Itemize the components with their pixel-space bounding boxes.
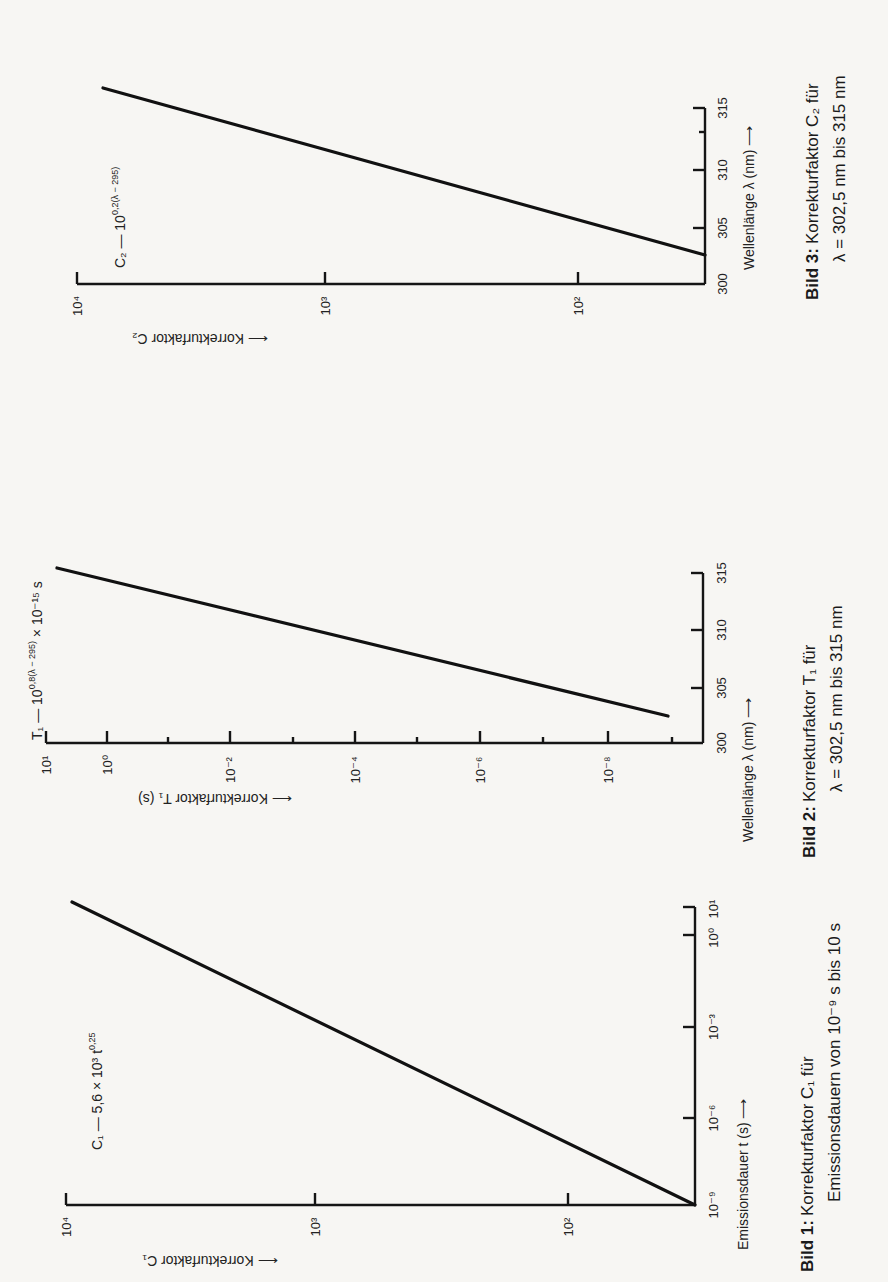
bild3-xtick-label: 300 bbox=[715, 273, 730, 295]
bild3-caption-line1: Bild 3:Korrekturfaktor C₂ für bbox=[803, 83, 822, 300]
bild2-xtick-label: 315 bbox=[714, 562, 729, 584]
bild2-caption-text: Korrekturfaktor T₁ für bbox=[800, 644, 819, 802]
bild1-caption-line1: Bild 1:Korrekturfaktor C₁ für bbox=[798, 1056, 817, 1272]
bild3-formula: C₂ — 100,2(λ − 295) bbox=[110, 167, 128, 268]
bild3-caption-line2: λ = 302,5 nm bis 315 nm bbox=[830, 75, 849, 262]
bild2-ytick-label: 10⁻² bbox=[223, 756, 238, 782]
bild1-xtick-label: 10⁻⁶ bbox=[706, 1105, 721, 1132]
bild2-xtick-label: 300 bbox=[714, 732, 729, 754]
bild1-xaxis-label: Emissionsdauer t (s) ⟶ bbox=[735, 1099, 751, 1250]
bild1-curve-c1 bbox=[72, 902, 695, 1205]
bild1-ytick-label: 10⁴ bbox=[59, 1217, 74, 1237]
chart-bild2: 10¹ 10⁰ 10⁻² 10⁻⁴ 10⁻⁶ 10⁻⁸ 300 305 310 … bbox=[27, 562, 846, 858]
bild3-curve-c2 bbox=[103, 88, 705, 255]
bild3-yaxis-label: ⟵ Korrekturfaktor C₂ bbox=[132, 331, 268, 347]
bild1-yaxis-label: ⟵ Korrekturfaktor C₁ bbox=[142, 1253, 277, 1269]
bild3-xtick-label: 315 bbox=[715, 97, 730, 119]
bild2-formula-main: T₁ — 10 bbox=[29, 689, 45, 740]
bild2-ytick-label: 10⁻⁸ bbox=[601, 757, 616, 784]
bild1-xtick-label: 10⁰ bbox=[706, 928, 721, 947]
bild2-curve-t1 bbox=[57, 568, 668, 716]
chart-bild3: 10⁴ 10³ 10² 300 305 310 315 Wellenlänge … bbox=[70, 75, 849, 347]
bild1-formula-main: C₁ — 5,6 × 10³ t bbox=[89, 1050, 105, 1150]
bild1-ytick-label: 10² bbox=[561, 1217, 576, 1236]
bild1-formula-exponent: 0,25 bbox=[87, 1032, 97, 1050]
bild3-ytick-label: 10³ bbox=[318, 296, 333, 315]
bild3-caption-label: Bild 3: bbox=[803, 248, 822, 300]
chart-bild1: 10⁴ 10³ 10² 10⁻⁹ 10⁻⁶ 10⁻³ 10⁰ 10¹ Emiss… bbox=[59, 899, 844, 1272]
bild2-caption-line2: λ = 302,5 nm bis 315 nm bbox=[827, 605, 846, 792]
bild2-ytick-label: 10⁻⁴ bbox=[348, 756, 363, 783]
bild1-caption-text: Korrekturfaktor C₁ für bbox=[798, 1056, 817, 1216]
bild2-ytick-label: 10⁻⁶ bbox=[473, 757, 488, 784]
bild1-caption-line2: Emissionsdauern von 10⁻⁹ s bis 10 s bbox=[825, 923, 844, 1202]
figure-page: 10⁴ 10³ 10² 300 305 310 315 Wellenlänge … bbox=[0, 0, 888, 1282]
bild3-ytick-label: 10⁴ bbox=[70, 296, 85, 316]
bild2-ytick-label: 10⁰ bbox=[100, 755, 115, 774]
bild3-caption-text: Korrekturfaktor C₂ für bbox=[803, 83, 822, 244]
bild2-formula: T₁ — 100,8(λ − 295) × 10⁻¹⁵ s bbox=[27, 581, 45, 740]
bild3-formula-main: C₂ — 10 bbox=[112, 215, 128, 268]
bild1-formula: C₁ — 5,6 × 10³ t0,25 bbox=[87, 1032, 105, 1150]
bild1-ytick-label: 10³ bbox=[308, 1217, 323, 1236]
bild1-xtick-label: 10¹ bbox=[706, 899, 721, 918]
bild2-xtick-label: 305 bbox=[714, 677, 729, 699]
bild3-xtick-label: 305 bbox=[715, 217, 730, 239]
bild1-caption-label: Bild 1: bbox=[798, 1220, 817, 1272]
bild3-xtick-label: 310 bbox=[715, 159, 730, 181]
bild1-xtick-label: 10⁻⁹ bbox=[706, 1191, 721, 1218]
bild2-formula-exponent: 0,8(λ − 295) bbox=[27, 641, 37, 689]
bild2-xtick-label: 310 bbox=[714, 619, 729, 641]
bild2-yaxis-label: ⟵ Korrekturfaktor T₁ (s) bbox=[138, 791, 292, 807]
bild2-ytick-label: 10¹ bbox=[39, 755, 54, 774]
bild2-caption-label: Bild 2: bbox=[800, 806, 819, 858]
bild2-formula-tail: × 10⁻¹⁵ s bbox=[29, 581, 45, 641]
bild2-xaxis-label: Wellenlänge λ (nm) ⟶ bbox=[740, 698, 756, 842]
bild3-ytick-label: 10² bbox=[571, 296, 586, 315]
bild3-formula-exponent: 0,2(λ − 295) bbox=[110, 167, 120, 215]
bild2-caption-line1: Bild 2:Korrekturfaktor T₁ für bbox=[800, 644, 819, 858]
bild1-xtick-label: 10⁻³ bbox=[706, 1013, 721, 1039]
bild3-xaxis-label: Wellenlänge λ (nm) ⟶ bbox=[741, 126, 757, 270]
